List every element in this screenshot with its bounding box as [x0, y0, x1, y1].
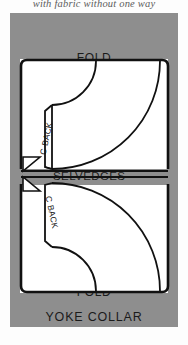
selvedge-arrow-lower: [23, 177, 40, 191]
fabric-rectangle: C BACK C BACK: [18, 57, 170, 295]
fabric-page-background: FOLD FOLD YOKE COLLAR SELVEDGES: [10, 13, 178, 327]
fabric-layout-svg: C BACK C BACK: [18, 57, 170, 295]
figure-caption-top: with fabric without one way: [0, 0, 188, 13]
cutting-layout-figure: with fabric without one way FOLD FOLD YO…: [0, 0, 188, 345]
figure-title-yoke-collar: YOKE COLLAR: [10, 310, 178, 324]
